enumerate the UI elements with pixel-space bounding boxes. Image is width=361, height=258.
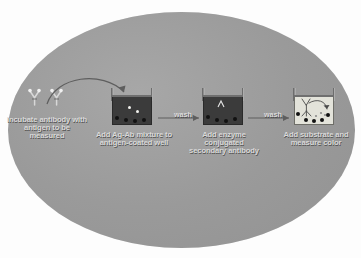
step-label-3: Add enzyme conjugated secondary antibody: [186, 131, 262, 156]
elisa-diagram: Incubate antibody with antigen to be mea…: [0, 0, 361, 258]
plate-body: [112, 95, 152, 125]
wash-label-2: wash: [256, 110, 290, 119]
microwell-plate-2: [108, 88, 156, 125]
enzyme-conjugate-icon: [216, 99, 226, 109]
step-label-4: Add substrate and measure color: [278, 131, 354, 147]
substrate-reaction-icon: [298, 97, 332, 121]
step-label-2: Add Ag-Ab mixture to antigen-coated well: [94, 131, 174, 147]
plate-rim: [203, 95, 243, 97]
plate-rim: [112, 95, 152, 97]
step-label-1: Incubate antibody with antigen to be mea…: [6, 116, 88, 141]
microwell-plate-4: [290, 88, 338, 125]
wash-label-1: wash: [166, 110, 200, 119]
microwell-plate-3: [199, 88, 247, 125]
